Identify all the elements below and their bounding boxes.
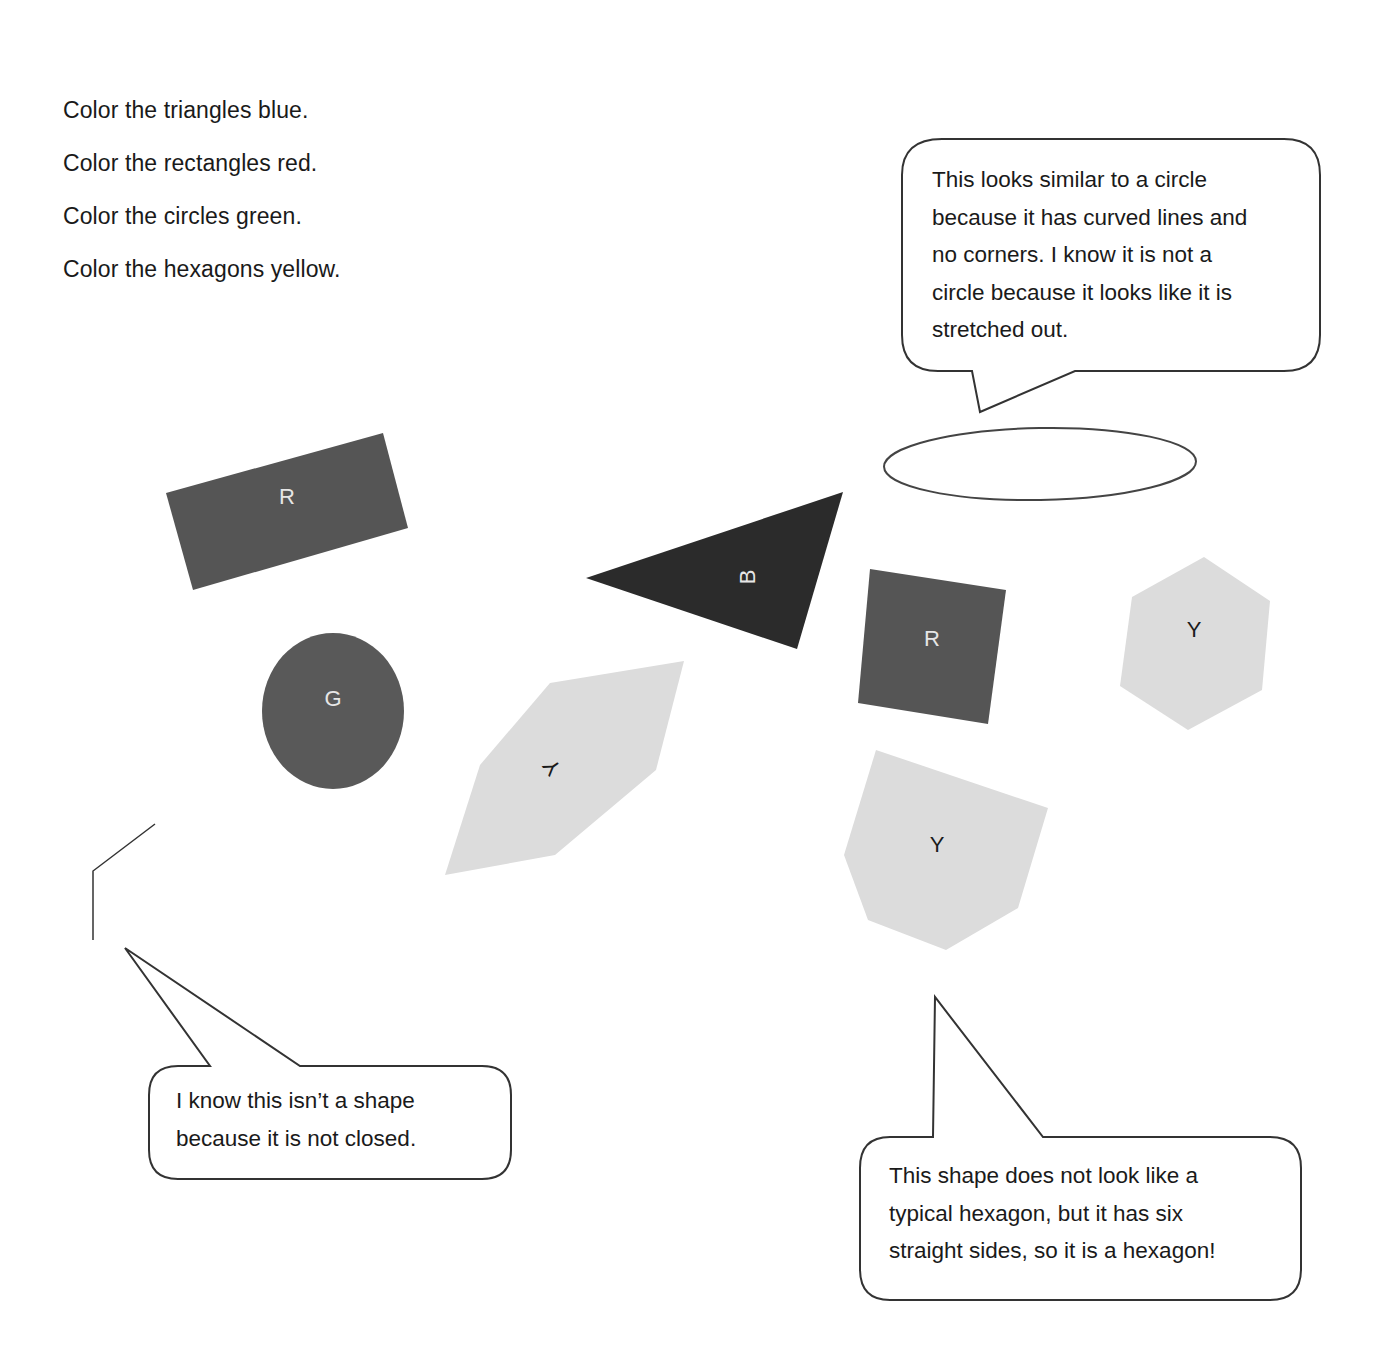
hexagon-shape-1: Y xyxy=(1120,557,1270,730)
callout-line: This looks similar to a circle xyxy=(932,161,1247,199)
callout-line: stretched out. xyxy=(932,311,1247,349)
shape-label: R xyxy=(279,484,295,509)
circle-shape-1: G xyxy=(262,633,404,789)
shape-label: B xyxy=(735,570,760,585)
callout-line: I know this isn’t a shape xyxy=(176,1082,416,1120)
callout-line: This shape does not look like a xyxy=(889,1157,1215,1195)
shape-label: Y xyxy=(1187,617,1202,642)
ellipse-shape-1 xyxy=(883,425,1196,502)
callout-text-irregular-hexagon-note: This shape does not look like a typical … xyxy=(889,1157,1215,1270)
square-shape-1: R xyxy=(858,569,1006,724)
hexagon-shape-2: Y xyxy=(445,661,684,875)
shape-label: G xyxy=(324,686,341,711)
triangle-shape-1: B xyxy=(586,492,843,649)
callout-line: typical hexagon, but it has six xyxy=(889,1195,1215,1233)
hexagon-shape-3: Y xyxy=(844,750,1048,950)
rectangle-shape-1: R xyxy=(166,433,408,590)
shape-label: R xyxy=(924,626,940,651)
callout-line: circle because it looks like it is xyxy=(932,274,1247,312)
callout-line: straight sides, so it is a hexagon! xyxy=(889,1232,1215,1270)
callout-text-ellipse-note: This looks similar to a circle because i… xyxy=(932,161,1247,349)
callout-line: because it has curved lines and xyxy=(932,199,1247,237)
callout-line: because it is not closed. xyxy=(176,1120,416,1158)
shape-label: Y xyxy=(930,832,945,857)
callout-line: no corners. I know it is not a xyxy=(932,236,1247,274)
callout-text-open-figure-note: I know this isn’t a shape because it is … xyxy=(176,1082,416,1157)
open-figure-1 xyxy=(93,824,155,940)
